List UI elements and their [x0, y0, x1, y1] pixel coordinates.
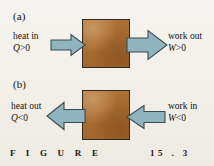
figure-container: (a) heat in Q>0 work out W>0 (b) heat ou… — [0, 0, 214, 166]
panel-label-b: (b) — [13, 78, 26, 90]
heat-out-value: 0 — [23, 113, 28, 123]
work-out-label: work out W>0 — [168, 31, 202, 54]
panel-label-a: (a) — [13, 10, 26, 22]
heat-in-symbol: Q — [13, 43, 20, 53]
heat-in-arrow-icon — [50, 33, 86, 57]
work-out-text: work out — [168, 31, 202, 43]
heat-in-value: 0 — [25, 43, 30, 53]
heat-out-equation: Q<0 — [11, 113, 41, 125]
work-out-equation: W>0 — [168, 43, 202, 55]
heat-in-text: heat in — [13, 31, 39, 43]
caption-figure-word: F I G U R E — [10, 148, 102, 158]
work-in-value: 0 — [181, 113, 186, 123]
caption-figure-number: 15 . 3 — [150, 148, 191, 158]
heat-out-label: heat out Q<0 — [11, 101, 41, 124]
heat-in-label: heat in Q>0 — [13, 31, 39, 54]
system-box-a — [82, 19, 130, 68]
work-out-value: 0 — [181, 43, 186, 53]
work-in-arrow-icon — [126, 104, 166, 130]
system-box-b — [82, 90, 130, 140]
work-in-symbol: W — [168, 113, 176, 123]
work-out-arrow-icon — [126, 29, 168, 61]
work-in-text: work in — [168, 101, 197, 113]
heat-out-symbol: Q — [11, 113, 18, 123]
heat-out-arrow-icon — [46, 101, 86, 131]
heat-out-text: heat out — [11, 101, 41, 113]
heat-in-equation: Q>0 — [13, 43, 39, 55]
work-in-label: work in W<0 — [168, 101, 197, 124]
work-in-equation: W<0 — [168, 113, 197, 125]
figure-caption: F I G U R E 15 . 3 — [0, 146, 214, 164]
work-out-symbol: W — [168, 43, 176, 53]
